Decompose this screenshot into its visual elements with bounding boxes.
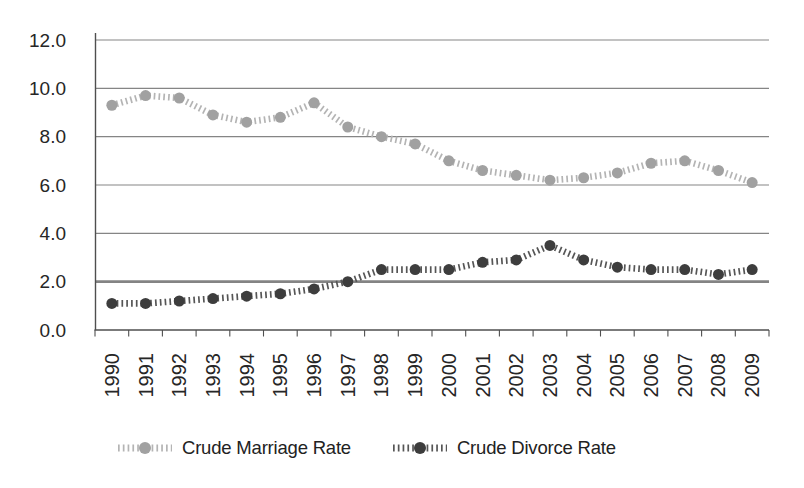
- legend-label-crude-divorce-rate: Crude Divorce Rate: [457, 437, 616, 459]
- x-axis-year-label: 1990: [101, 353, 123, 398]
- x-axis-year-label: 2006: [640, 353, 662, 398]
- y-axis-tick-label: 2.0: [40, 271, 66, 292]
- legend-label-crude-marriage-rate: Crude Marriage Rate: [182, 437, 351, 459]
- y-axis-tick-label: 0.0: [40, 320, 66, 341]
- x-axis-year-label: 1992: [168, 353, 190, 398]
- y-axis-tick-label: 4.0: [40, 223, 66, 244]
- x-axis-year-label: 1991: [135, 353, 157, 398]
- x-axis-year-label: 2009: [741, 353, 763, 398]
- x-axis-year-label: 1993: [202, 353, 224, 398]
- marriage-series-swatch-icon: [118, 440, 172, 456]
- x-axis-year-label: 2000: [438, 353, 460, 398]
- line-chart-plot-area: 0.02.04.06.08.010.012.019901991199219931…: [0, 0, 804, 420]
- x-axis-year-label: 1996: [303, 353, 325, 398]
- x-axis-year-label: 1999: [404, 353, 426, 398]
- chart-figure: 0.02.04.06.08.010.012.019901991199219931…: [0, 0, 804, 488]
- y-axis-tick-label: 10.0: [29, 78, 66, 99]
- x-axis-year-label: 2004: [573, 353, 595, 398]
- legend-item-crude-marriage-rate: Crude Marriage Rate: [118, 437, 351, 459]
- divorce-series-swatch-icon: [393, 440, 447, 456]
- x-axis-year-label: 2008: [707, 353, 729, 398]
- y-axis-tick-label: 12.0: [29, 30, 66, 51]
- y-axis-tick-label: 8.0: [40, 126, 66, 147]
- y-axis-tick-label: 6.0: [40, 175, 66, 196]
- x-axis-year-label: 2005: [606, 353, 628, 398]
- x-axis-year-label: 2002: [505, 353, 527, 398]
- x-axis-year-label: 2001: [472, 353, 494, 398]
- x-axis-year-label: 2003: [539, 353, 561, 398]
- x-axis-year-label: 2007: [674, 353, 696, 398]
- x-axis-year-label: 1994: [236, 353, 258, 398]
- legend-item-crude-divorce-rate: Crude Divorce Rate: [393, 437, 616, 459]
- x-axis-year-label: 1997: [337, 353, 359, 398]
- x-axis-year-label: 1998: [370, 353, 392, 398]
- x-axis-year-label: 1995: [269, 353, 291, 398]
- chart-legend: Crude Marriage Rate Crude Divorce Rate: [118, 436, 616, 460]
